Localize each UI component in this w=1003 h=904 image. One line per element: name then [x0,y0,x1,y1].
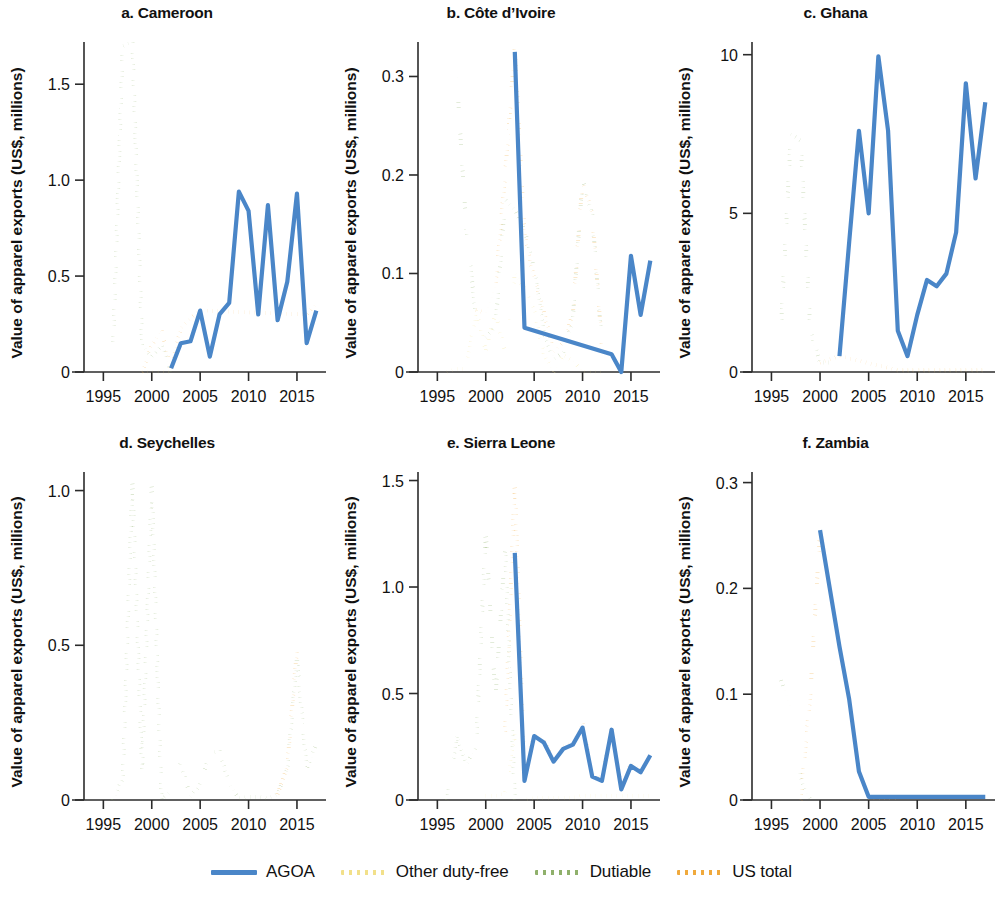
legend-label-us-total: US total [732,862,792,882]
figure-root: a. Cameroon 00.51.01.5199520002005201020… [0,0,1003,904]
x-tick-label: 2000 [134,388,170,405]
y-tick-label: 0 [61,792,70,809]
x-tick-label: 1995 [86,388,122,405]
panel-e-sierra-leone: e. Sierra Leone 00.51.01.519952000200520… [334,430,668,858]
x-tick-label: 1995 [754,388,790,405]
y-axis-title: Value of apparel exports (US$, millions) [8,67,25,358]
y-tick-label: 0.5 [382,686,404,703]
series-dutiable [447,532,515,800]
y-tick-label: 1.5 [382,473,404,490]
x-tick-label: 2010 [899,388,935,405]
panel-chart-c: 051019952000200520102015Value of apparel… [668,0,1003,430]
panel-b-cote-divoire: b. Côte d’Ivoire 00.10.20.31995200020052… [334,0,668,430]
x-tick-label: 2015 [613,816,649,833]
x-tick-label: 2015 [279,816,315,833]
x-tick-label: 2000 [468,388,504,405]
series-dutiable [113,42,171,372]
series-us-total [801,530,820,800]
y-axis-title: Value of apparel exports (US$, millions) [342,496,359,787]
legend-item-dutiable: Dutiable [535,862,652,882]
y-axis-title: Value of apparel exports (US$, millions) [8,496,25,787]
legend-swatch-dutiable [535,870,581,875]
series-dutiable [113,481,316,800]
y-tick-label: 0.1 [716,686,738,703]
y-tick-label: 10 [720,47,738,64]
x-tick-label: 2005 [516,816,552,833]
y-axis-title: Value of apparel exports (US$, millions) [676,496,693,787]
legend-swatch-us-total [677,870,723,875]
y-tick-label: 1.5 [48,76,70,93]
x-tick-label: 2005 [182,388,218,405]
x-tick-label: 2010 [231,388,267,405]
x-tick-label: 2015 [279,388,315,405]
x-tick-label: 1995 [420,388,456,405]
panel-a-cameroon: a. Cameroon 00.51.01.5199520002005201020… [0,0,334,430]
panel-chart-f: 00.10.20.319952000200520102015Value of a… [668,430,1003,858]
x-tick-label: 2005 [851,816,887,833]
panel-f-zambia: f. Zambia 00.10.20.319952000200520102015… [668,430,1003,858]
x-tick-label: 2005 [182,816,218,833]
series-agoa [171,192,316,369]
x-tick-label: 1995 [420,816,456,833]
x-tick-label: 2000 [802,816,838,833]
legend-item-agoa: AGOA [211,862,315,882]
panel-chart-d: 00.51.019952000200520102015Value of appa… [0,430,334,858]
x-tick-label: 1995 [86,816,122,833]
x-tick-label: 2015 [613,388,649,405]
legend-label-dutiable: Dutiable [590,862,652,882]
y-tick-label: 0.1 [382,265,404,282]
y-tick-label: 0 [61,364,70,381]
y-tick-label: 0.2 [716,580,738,597]
legend-label-agoa: AGOA [266,862,315,882]
chart-legend: AGOA Other duty-free Dutiable US total [0,862,1003,882]
legend-label-other-duty-free: Other duty-free [396,862,509,882]
series-dutiable [781,680,810,800]
legend-item-us-total: US total [677,862,792,882]
x-tick-label: 2010 [565,388,601,405]
panel-c-ghana: c. Ghana 051019952000200520102015Value o… [668,0,1003,430]
x-tick-label: 2010 [899,816,935,833]
y-axis-title: Value of apparel exports (US$, millions) [342,67,359,358]
y-tick-label: 0 [729,792,738,809]
x-tick-label: 1995 [754,816,790,833]
series-us-total [278,648,297,793]
panel-grid: a. Cameroon 00.51.01.5199520002005201020… [0,0,1003,858]
y-axis-title: Value of apparel exports (US$, millions) [676,67,693,358]
y-tick-label: 0.5 [48,637,70,654]
x-tick-label: 2000 [468,816,504,833]
series-us-total [476,47,602,352]
series-dutiable [781,134,830,362]
series-other-duty-free [486,732,651,800]
y-tick-label: 1.0 [48,172,70,189]
panel-chart-a: 00.51.01.519952000200520102015Value of a… [0,0,334,430]
x-tick-label: 2015 [948,388,984,405]
series-us-total [820,356,985,370]
panel-chart-b: 00.10.20.319952000200520102015Value of a… [334,0,668,430]
legend-swatch-other-duty-free [341,870,387,875]
y-tick-label: 0 [729,364,738,381]
y-tick-label: 0 [395,792,404,809]
y-tick-label: 5 [729,205,738,222]
series-agoa [515,52,651,372]
legend-item-other-duty-free: Other duty-free [341,862,509,882]
x-tick-label: 2010 [231,816,267,833]
legend-swatch-agoa [211,870,257,875]
y-tick-label: 0.3 [382,68,404,85]
y-tick-label: 0.3 [716,475,738,492]
y-tick-label: 0.2 [382,167,404,184]
panel-d-seychelles: d. Seychelles 00.51.01995200020052010201… [0,430,334,858]
series-agoa [820,530,985,797]
x-tick-label: 2010 [565,816,601,833]
x-tick-label: 2015 [948,816,984,833]
x-tick-label: 2005 [516,388,552,405]
y-tick-label: 0 [395,364,404,381]
y-tick-label: 0.5 [48,268,70,285]
panel-chart-e: 00.51.01.519952000200520102015Value of a… [334,430,668,858]
x-tick-label: 2005 [851,388,887,405]
series-agoa [515,553,651,789]
y-tick-label: 1.0 [48,483,70,500]
y-tick-label: 1.0 [382,579,404,596]
series-agoa [839,56,985,356]
series-us-total [142,303,316,372]
x-tick-label: 2000 [802,388,838,405]
